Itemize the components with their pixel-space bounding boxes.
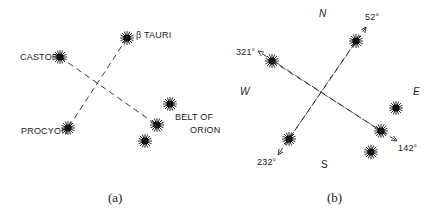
panel-a-caption: (a)	[108, 190, 122, 206]
procyon-star-icon	[282, 132, 296, 146]
west-label: W	[240, 86, 250, 97]
beta-tauri-star-icon	[120, 31, 134, 45]
orion-belt-star-icon	[138, 134, 152, 148]
procyon-label: PROCYON	[21, 126, 68, 136]
north-label: N	[319, 8, 326, 19]
belt-of-orion-label-line1: BELT OF	[175, 112, 213, 122]
panel-b-caption: (b)	[327, 190, 342, 206]
castor-orion-line	[60, 57, 157, 125]
panel-b	[258, 27, 403, 159]
tauri-procyon-line	[68, 38, 127, 128]
bearing-321-label: 321°	[236, 47, 255, 57]
bearing-52-label: 52°	[365, 12, 379, 22]
orion-belt-star-icon	[364, 145, 378, 159]
castor-label: CASTOR	[20, 52, 59, 62]
orion-belt-star-icon	[374, 124, 388, 138]
east-label: E	[413, 86, 420, 97]
bearing-232-label: 232°	[257, 157, 276, 167]
orion-belt-star-icon	[389, 101, 403, 115]
panel-a	[53, 31, 177, 148]
belt-of-orion-label-line2: ORION	[190, 125, 221, 135]
south-label: S	[321, 159, 328, 170]
orion-belt-star-icon	[150, 118, 164, 132]
orion-belt-star-icon	[163, 97, 177, 111]
castor-star-icon	[265, 54, 279, 68]
star-diagram	[0, 0, 440, 217]
beta-tauri-label: β TAURI	[136, 30, 171, 40]
beta-tauri-star-icon	[349, 34, 363, 48]
bearing-142-label: 142°	[398, 143, 417, 153]
